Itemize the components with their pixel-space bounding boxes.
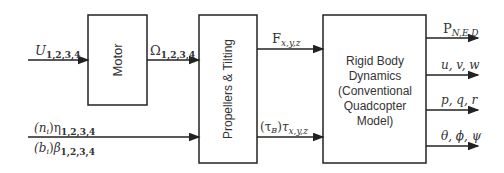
rigid-body-line-3: (Conventional [338,84,412,98]
propellers-tilting-label: Propellers & Tilting [221,39,235,139]
output-angular-rate-label: p, q, r [441,93,479,107]
motor-label: Motor [110,43,125,77]
rigid-body-line-2: Dynamics [349,69,402,83]
rigid-body-line-5: Model) [357,114,394,128]
quadcopter-block-diagram: Motor Propellers & Tilting Rigid Body Dy… [0,0,504,173]
rigid-body-line-1: Rigid Body [346,54,404,68]
eta-input-label: (ni)η1,2,3,4 [34,121,95,138]
rigid-body-line-4: Quadcopter [344,99,407,113]
output-position-label: PN,E,D [443,21,479,38]
torque-label: (τB)τx,y,z [260,120,308,136]
beta-input-label: (bi)β1,2,3,4 [34,141,95,158]
output-attitude-label: θ, ϕ, ψ [441,129,482,143]
force-label: Fx,y,z [272,31,301,48]
output-velocity-label: u, v, w [441,58,480,72]
u-input-label: U1,2,3,4 [35,43,80,61]
omega-label: Ω1,2,3,4 [150,43,195,61]
